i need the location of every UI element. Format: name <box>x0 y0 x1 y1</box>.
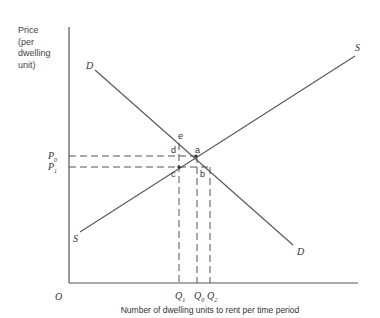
origin-label: O <box>55 291 62 302</box>
point-a-label: a <box>195 145 200 156</box>
demand-label-bottom: D <box>297 246 304 257</box>
y-axis-label: Price (per dwelling unit) <box>18 25 51 71</box>
q1-label: Q1 <box>175 290 185 306</box>
x-axis-label: Number of dwelling units to rent per tim… <box>0 305 380 315</box>
point-d-label: d <box>171 145 176 156</box>
point-c-dot <box>177 165 180 168</box>
supply-label-bottom: S <box>73 233 78 244</box>
point-b-label: b <box>200 169 205 180</box>
p1-label: P1 <box>48 161 57 177</box>
point-c-label: c <box>171 169 176 180</box>
q0-label: Q0 <box>194 290 204 306</box>
supply-label-top: S <box>355 42 360 53</box>
supply-curve <box>80 56 355 232</box>
demand-curve <box>95 70 293 245</box>
q2-label: Q2 <box>207 290 217 306</box>
demand-label-top: D <box>86 60 93 71</box>
point-e-label: e <box>178 131 183 142</box>
